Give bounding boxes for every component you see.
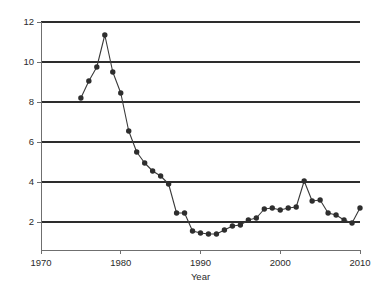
data-point-1997	[254, 215, 259, 220]
data-point-2008	[341, 217, 346, 222]
data-point-1996	[246, 217, 251, 222]
data-point-1975	[78, 95, 83, 100]
data-point-2004	[309, 198, 314, 203]
tick-marks	[37, 22, 360, 254]
axes	[41, 22, 360, 250]
data-point-1983	[142, 160, 147, 165]
data-series	[81, 35, 360, 234]
chart-canvas: 24681012 19701980199020002010 Year	[0, 0, 384, 286]
data-point-2002	[294, 204, 299, 209]
data-point-1988	[182, 210, 187, 215]
data-point-1995	[238, 222, 243, 227]
data-point-1990	[198, 230, 203, 235]
data-point-markers	[78, 32, 363, 236]
data-point-1986	[166, 181, 171, 186]
y-tick-label-2: 2	[29, 216, 34, 227]
data-point-2001	[286, 205, 291, 210]
data-point-2006	[325, 210, 330, 215]
data-point-1989	[190, 228, 195, 233]
data-point-1984	[150, 168, 155, 173]
data-point-1991	[206, 231, 211, 236]
x-tick-label-1990: 1990	[190, 257, 211, 268]
y-tick-label-4: 4	[29, 176, 34, 187]
data-point-1981	[126, 128, 131, 133]
data-point-2003	[301, 178, 306, 183]
y-tick-label-8: 8	[29, 96, 34, 107]
data-point-1998	[262, 206, 267, 211]
data-point-2009	[349, 220, 354, 225]
x-tick-label-2010: 2010	[349, 257, 370, 268]
x-tick-label-1970: 1970	[30, 257, 51, 268]
data-point-2007	[333, 212, 338, 217]
data-point-1999	[270, 205, 275, 210]
data-point-1976	[86, 78, 91, 83]
data-point-1992	[214, 231, 219, 236]
data-point-2010	[357, 205, 362, 210]
y-tick-label-12: 12	[23, 16, 34, 27]
data-point-1993	[222, 227, 227, 232]
data-point-1985	[158, 173, 163, 178]
data-point-1987	[174, 210, 179, 215]
series-line-series-1	[81, 35, 360, 234]
y-tick-label-10: 10	[23, 56, 34, 67]
data-point-2000	[278, 207, 283, 212]
data-point-1994	[230, 223, 235, 228]
data-point-1980	[118, 90, 123, 95]
data-point-1978	[102, 32, 107, 37]
data-point-1979	[110, 69, 115, 74]
line-chart: 24681012 19701980199020002010 Year	[0, 0, 384, 286]
data-point-1977	[94, 64, 99, 69]
y-axis-tick-labels: 24681012	[23, 16, 34, 227]
x-axis-tick-labels: 19701980199020002010	[30, 257, 370, 268]
x-tick-label-2000: 2000	[270, 257, 291, 268]
x-tick-label-1980: 1980	[110, 257, 131, 268]
y-tick-label-6: 6	[29, 136, 34, 147]
x-axis-title: Year	[191, 271, 210, 282]
data-point-1982	[134, 149, 139, 154]
gridlines	[41, 22, 360, 222]
data-point-2005	[317, 197, 322, 202]
